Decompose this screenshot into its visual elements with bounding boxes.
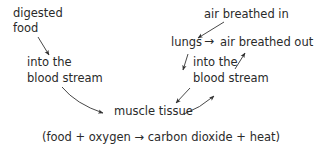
node-lungs: lungs — [171, 35, 202, 50]
node-blood-stream-left-line1: into the — [27, 55, 72, 70]
node-air-breathed-in: air breathed in — [204, 7, 289, 22]
arrow-blood-to-muscle-left — [62, 87, 103, 113]
arrow-blood-to-muscle-right — [176, 88, 190, 103]
node-blood-stream-left-line2: blood stream — [27, 71, 103, 86]
lungs-to-air-out-arrow: → — [204, 34, 214, 49]
equation-caption: (food + oxygen → carbon dioxide + heat) — [42, 130, 280, 145]
node-blood-stream-right-line1: into the — [193, 55, 238, 70]
node-digested-food-line2: food — [13, 21, 38, 36]
respiration-diagram: digested food into the blood stream air … — [0, 0, 322, 161]
node-blood-stream-right-line2: blood stream — [193, 71, 269, 86]
node-muscle-tissue: muscle tissue — [114, 104, 193, 119]
arrow-lungs-to-blood — [183, 54, 188, 70]
arrow-food-to-blood — [38, 37, 49, 55]
node-air-breathed-out: air breathed out — [220, 35, 313, 50]
node-digested-food-line1: digested — [13, 6, 63, 21]
